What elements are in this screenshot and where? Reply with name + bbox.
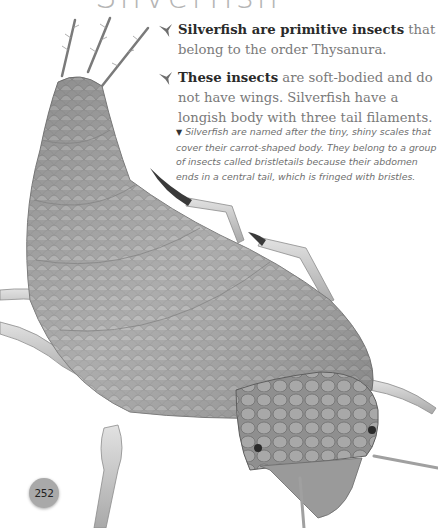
triangle-down-icon: ▼ (176, 128, 182, 137)
image-caption: ▼Silverfish are named after the tiny, sh… (176, 125, 438, 184)
bird-bullet-icon (158, 71, 173, 86)
eye-left (254, 444, 262, 452)
bird-bullet-icon (158, 23, 173, 38)
eye-right (368, 426, 376, 434)
page-number-badge: 252 (29, 478, 59, 508)
fact-item: These insects are soft-bodied and do not… (158, 68, 438, 128)
head (260, 458, 362, 518)
tail-filaments (62, 18, 148, 86)
fact-list: Silverfish are primitive insects that be… (158, 20, 438, 136)
fact-bold: Silverfish are primitive insects (178, 22, 404, 37)
head-shield (236, 372, 378, 470)
fact-item: Silverfish are primitive insects that be… (158, 20, 438, 60)
caption-text: Silverfish are named after the tiny, shi… (176, 126, 436, 182)
fact-bold: These insects (178, 70, 278, 85)
